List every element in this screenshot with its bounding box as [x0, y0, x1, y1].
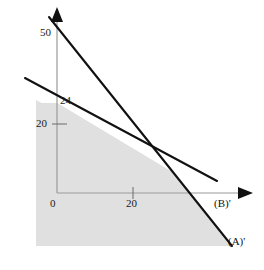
x-axis-arrowhead-icon: [238, 187, 253, 199]
figure-container: 50 24 20 0 20 (A)' (B)': [0, 0, 264, 270]
figure-caption: [0, 258, 264, 270]
line-a-label: (A)': [228, 236, 245, 247]
graph-canvas: [0, 0, 264, 270]
y-axis-arrowhead-icon: [51, 7, 63, 22]
y-tick-label-50: 50: [40, 27, 51, 38]
x-tick-label-0: 0: [50, 198, 56, 209]
line-b-label: (B)': [214, 198, 231, 209]
y-tick-label-20: 20: [36, 118, 47, 129]
x-tick-label-20: 20: [126, 198, 137, 209]
y-tick-label-24: 24: [60, 95, 71, 106]
